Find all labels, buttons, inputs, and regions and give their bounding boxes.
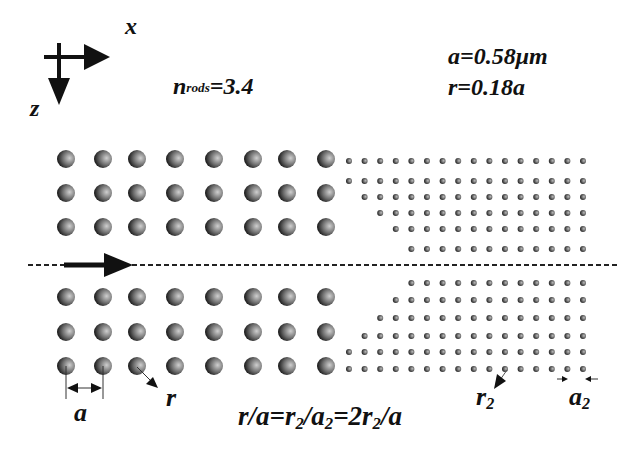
small-rod (408, 349, 414, 355)
small-rod (377, 158, 383, 164)
large-rod (278, 288, 296, 306)
small-rod (549, 246, 555, 252)
small-rod (408, 333, 414, 339)
small-rod (502, 158, 508, 164)
large-rod (317, 150, 335, 168)
small-rod (377, 210, 383, 216)
small-rod (518, 226, 524, 232)
large-rod (278, 184, 296, 202)
small-rod (580, 226, 586, 232)
small-rod (549, 158, 555, 164)
small-rod (408, 297, 414, 303)
small-rod (518, 349, 524, 355)
small-rod (580, 333, 586, 339)
small-rod (564, 349, 570, 355)
small-rod (564, 297, 570, 303)
small-rod (580, 349, 586, 355)
small-rod (393, 158, 399, 164)
small-rod (486, 349, 492, 355)
small-rod (533, 210, 539, 216)
small-rod (408, 194, 414, 200)
small-rod (549, 210, 555, 216)
small-rod (377, 194, 383, 200)
small-rod (518, 178, 524, 184)
a2-label: a2 (569, 384, 590, 412)
small-rod (408, 158, 414, 164)
small-rod (502, 315, 508, 321)
small-rod (440, 158, 446, 164)
small-rod (346, 178, 352, 184)
small-rod (346, 158, 352, 164)
small-rod (533, 280, 539, 286)
large-rod (94, 323, 112, 341)
small-rod (502, 246, 508, 252)
small-rod (393, 333, 399, 339)
small-rod (471, 315, 477, 321)
small-rod (393, 210, 399, 216)
small-rod (502, 194, 508, 200)
small-rod (549, 226, 555, 232)
small-rod (533, 349, 539, 355)
small-rod (533, 246, 539, 252)
small-rod (455, 158, 461, 164)
small-rod (564, 333, 570, 339)
small-rod (471, 210, 477, 216)
small-rod (440, 194, 446, 200)
small-rod (408, 226, 414, 232)
lattice-constant-label: a=0.58μm (448, 44, 548, 68)
small-rod (533, 333, 539, 339)
small-rod (502, 210, 508, 216)
small-rod (564, 210, 570, 216)
small-rod (486, 333, 492, 339)
n-rods-subscript: rods (186, 80, 209, 95)
large-rod (94, 184, 112, 202)
large-rod (317, 218, 335, 236)
ratio-relation-label: r/a=r2/a2=2r2/a (238, 403, 402, 433)
small-rod (580, 315, 586, 321)
small-rod (424, 315, 430, 321)
small-rod (502, 297, 508, 303)
large-rod (94, 218, 112, 236)
small-rod (549, 280, 555, 286)
small-rod (471, 297, 477, 303)
large-rod (166, 288, 184, 306)
small-rod (455, 194, 461, 200)
small-rod (518, 315, 524, 321)
small-rod (518, 194, 524, 200)
x-axis-label: x (125, 14, 137, 38)
small-rod (346, 366, 352, 372)
large-rod (128, 184, 146, 202)
large-rod (128, 218, 146, 236)
small-rod (455, 178, 461, 184)
small-rod (408, 315, 414, 321)
large-rod (166, 184, 184, 202)
small-rod (486, 158, 492, 164)
large-rod (278, 150, 296, 168)
small-rod (533, 366, 539, 372)
large-rod (128, 323, 146, 341)
small-rod (518, 280, 524, 286)
small-rod (362, 366, 368, 372)
small-rod (393, 315, 399, 321)
propagation-arrowhead-icon (104, 253, 133, 277)
small-rod (518, 366, 524, 372)
small-rod (533, 194, 539, 200)
small-rod (424, 246, 430, 252)
small-rod (549, 349, 555, 355)
small-rod (486, 280, 492, 286)
small-rod (580, 158, 586, 164)
small-rod (455, 280, 461, 286)
small-rod (440, 366, 446, 372)
small-rod (564, 280, 570, 286)
large-rod (317, 288, 335, 306)
r2-radius-marker (494, 370, 507, 389)
small-rod (580, 178, 586, 184)
small-rod (564, 366, 570, 372)
small-rod (393, 178, 399, 184)
large-rod (244, 288, 262, 306)
small-rod (455, 315, 461, 321)
small-rod (362, 178, 368, 184)
small-rod (549, 297, 555, 303)
small-rod (533, 226, 539, 232)
large-rod (128, 288, 146, 306)
